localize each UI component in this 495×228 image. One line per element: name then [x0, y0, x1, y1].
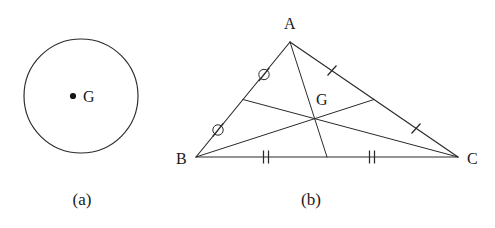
- single-tick: [412, 124, 421, 134]
- geometry-figure: G (a): [0, 0, 495, 228]
- median-C-to-AB: [243, 100, 458, 158]
- panel-a-group: G (a): [24, 39, 138, 209]
- single-tick: [328, 66, 337, 76]
- tick-AC-upper: [328, 66, 337, 76]
- tick-AB-lower: [213, 124, 223, 137]
- center-dot: [70, 93, 76, 99]
- circle-shape: [24, 39, 138, 153]
- vertex-label-B: B: [176, 150, 187, 167]
- centroid-label-G: G: [316, 91, 328, 108]
- panel-a-caption: (a): [73, 190, 92, 209]
- tick-AC-lower: [412, 124, 421, 134]
- panel-b-group: A B C G (b): [176, 15, 478, 209]
- figure-canvas: G (a): [0, 0, 495, 228]
- tick-AB-upper: [259, 68, 269, 81]
- vertex-label-C: C: [467, 150, 478, 167]
- panel-b-caption: (b): [301, 190, 321, 209]
- center-point-label: G: [83, 88, 95, 105]
- vertex-label-A: A: [284, 15, 296, 32]
